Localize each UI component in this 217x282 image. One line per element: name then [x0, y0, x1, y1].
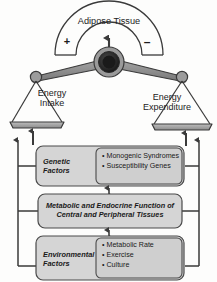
metabolic-endocrine-title: Metabolic and Endocrine Function of Cent…: [40, 196, 180, 226]
right-pan-assembly: [152, 71, 212, 130]
list-item-label: Exercise: [106, 251, 133, 259]
left-bracket: [18, 140, 38, 266]
list-item: •Metabolic Rate: [102, 240, 184, 250]
bullet-icon: •: [102, 261, 104, 269]
list-item-label: Culture: [106, 261, 129, 269]
left-pan-assembly: [10, 71, 64, 128]
list-item-label: Monogenic Syndromes: [106, 152, 179, 160]
environmental-factors-list: •Metabolic Rate •Exercise •Culture: [98, 240, 184, 270]
list-item-label: Metabolic Rate: [106, 241, 153, 249]
genetic-factors-title: Genetic Factors: [38, 150, 96, 182]
bullet-icon: •: [102, 241, 104, 249]
list-item: •Susceptibility Genes: [102, 161, 184, 171]
bullet-icon: •: [102, 162, 104, 170]
list-item: •Culture: [102, 260, 184, 270]
list-item: •Exercise: [102, 250, 184, 260]
adipose-tissue-energy-balance-figure: Adipose Tissue + – Energy Intake Energy …: [0, 0, 217, 282]
bullet-icon: •: [102, 152, 104, 160]
environmental-factors-title: Environmental Factors: [38, 241, 96, 277]
genetic-factors-list: •Monogenic Syndromes •Susceptibility Gen…: [98, 151, 184, 171]
list-item: •Monogenic Syndromes: [102, 151, 184, 161]
list-item-label: Susceptibility Genes: [106, 162, 170, 170]
bullet-icon: •: [102, 251, 104, 259]
fulcrum-hub: [94, 47, 124, 77]
